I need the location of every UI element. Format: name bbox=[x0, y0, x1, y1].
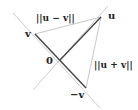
origin-label: 0 bbox=[46, 55, 53, 66]
vector-u-line bbox=[60, 17, 101, 60]
u-minus-v-norm-label: ||u − v|| bbox=[36, 13, 75, 24]
u-point-label: u bbox=[108, 10, 115, 21]
u-plus-v-norm-label: ||u + v|| bbox=[94, 60, 133, 71]
neg-v-point-label: −v bbox=[70, 89, 85, 100]
v-point-label: v bbox=[24, 28, 32, 39]
vector-norm-diagram: ||u − v|| u v 0 ||u + v|| −v bbox=[0, 0, 138, 110]
